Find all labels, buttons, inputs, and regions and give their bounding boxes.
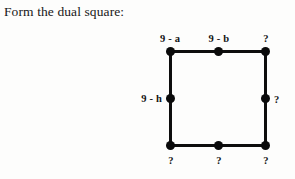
label-middle-left: 9 - h (141, 93, 162, 104)
vertex-top-right (261, 47, 270, 56)
vertex-top-middle (214, 47, 223, 56)
vertex-bottom-middle (214, 141, 223, 150)
vertex-middle-left (166, 94, 175, 103)
vertex-top-left (166, 47, 175, 56)
label-bottom-left: ? (168, 155, 173, 166)
label-top-left: 9 - a (160, 33, 180, 44)
label-bottom-middle: ? (216, 155, 221, 166)
vertex-bottom-right (261, 141, 270, 150)
vertex-middle-right (261, 94, 270, 103)
label-top-right: ? (263, 33, 268, 44)
dual-square-figure: 9 - a9 - b?9 - h???? (0, 0, 295, 179)
page-root: Form the dual square: 9 - a9 - b?9 - h??… (0, 0, 295, 179)
vertex-bottom-left (166, 141, 175, 150)
label-top-middle: 9 - b (209, 33, 230, 44)
label-middle-right: ? (274, 94, 279, 105)
label-bottom-right: ? (263, 155, 268, 166)
